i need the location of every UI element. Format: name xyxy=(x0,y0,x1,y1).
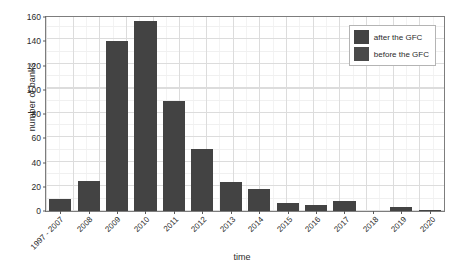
x-tick-cell: 2017 xyxy=(331,212,360,252)
bar-slot xyxy=(160,17,188,211)
x-tick-label: 2009 xyxy=(104,215,123,234)
x-axis-label: time xyxy=(40,252,444,262)
x-tick-label: 2016 xyxy=(304,215,323,234)
bar xyxy=(163,101,185,211)
x-tick-label: 2018 xyxy=(361,215,380,234)
x-tick-cell: 2009 xyxy=(102,212,131,252)
bar xyxy=(248,189,270,211)
x-tick-label: 2011 xyxy=(161,215,180,234)
x-tick-cell: 2010 xyxy=(131,212,160,252)
x-tick-cell: 2013 xyxy=(216,212,245,252)
bar xyxy=(78,181,100,211)
bar-slot xyxy=(131,17,159,211)
legend-swatch xyxy=(354,30,369,44)
x-tick-cell: 2018 xyxy=(359,212,388,252)
x-tick-cell: 2019 xyxy=(388,212,417,252)
legend-item: before the GFC xyxy=(354,47,429,61)
legend-label: after the GFC xyxy=(374,33,422,42)
x-tick-cell: 2014 xyxy=(245,212,274,252)
bar xyxy=(333,201,355,211)
x-tick-label: 2010 xyxy=(132,215,151,234)
legend-item: after the GFC xyxy=(354,30,429,44)
bar xyxy=(277,203,299,211)
bar xyxy=(134,21,156,211)
x-tick-cell: 1997 - 2007 xyxy=(45,212,74,252)
x-tick-label: 2014 xyxy=(247,215,266,234)
x-tick-label: 2012 xyxy=(190,215,209,234)
x-tick-cell: 2020 xyxy=(417,212,446,252)
x-axis-tick-labels: 1997 - 200720082009201020112012201320142… xyxy=(45,212,445,252)
x-tick-cell: 2008 xyxy=(74,212,103,252)
plot-area: 020406080100120140160 after the GFCbefor… xyxy=(45,16,445,212)
bar-slot xyxy=(46,17,74,211)
x-tick-label: 2019 xyxy=(390,215,409,234)
x-tick-cell: 2016 xyxy=(302,212,331,252)
legend: after the GFCbefore the GFC xyxy=(349,25,436,66)
x-tick-label: 2015 xyxy=(275,215,294,234)
bar xyxy=(191,149,213,211)
bar-slot xyxy=(217,17,245,211)
bar-slot xyxy=(103,17,131,211)
x-tick-label: 1997 - 2007 xyxy=(29,215,66,252)
x-tick-cell: 2012 xyxy=(188,212,217,252)
legend-swatch xyxy=(354,47,369,61)
bar xyxy=(220,182,242,211)
x-tick-label: 2008 xyxy=(75,215,94,234)
x-tick-label: 2013 xyxy=(218,215,237,234)
bar-slot xyxy=(188,17,216,211)
x-tick-label: 2020 xyxy=(418,215,437,234)
legend-label: before the GFC xyxy=(374,50,429,59)
x-tick-label: 2017 xyxy=(332,215,351,234)
bar xyxy=(106,41,128,211)
bar xyxy=(49,199,71,211)
bar-slot xyxy=(302,17,330,211)
bar-chart-figure: number of banks 020406080100120140160 af… xyxy=(0,0,458,274)
x-tick-cell: 2011 xyxy=(159,212,188,252)
bar-slot xyxy=(273,17,301,211)
bar-slot xyxy=(245,17,273,211)
bar-slot xyxy=(74,17,102,211)
x-tick-cell: 2015 xyxy=(274,212,303,252)
